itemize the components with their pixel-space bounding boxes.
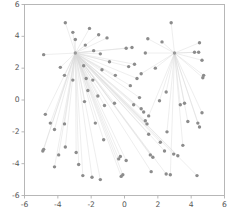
cluster-spoke <box>75 53 118 159</box>
y-tick-label: 6 <box>15 0 20 9</box>
data-point <box>147 114 150 117</box>
data-point <box>151 156 154 159</box>
data-point <box>92 49 95 52</box>
data-point <box>71 78 74 81</box>
data-point <box>197 51 200 54</box>
data-point <box>142 110 145 113</box>
data-point <box>103 104 106 107</box>
data-point <box>130 46 133 49</box>
data-point <box>53 128 56 131</box>
data-point <box>74 38 77 41</box>
data-point <box>172 152 175 155</box>
data-point <box>108 60 111 63</box>
data-point <box>144 51 147 54</box>
cluster-spoke <box>44 53 76 55</box>
x-tick-label: 2 <box>155 200 160 209</box>
data-point <box>53 165 56 168</box>
data-point <box>64 145 67 148</box>
cluster-spoke <box>175 53 203 113</box>
data-point <box>113 101 116 104</box>
data-point <box>57 153 60 156</box>
y-tick-label: -4 <box>12 159 20 168</box>
cluster-spokes-layer <box>43 23 204 180</box>
data-point <box>49 121 52 124</box>
data-point <box>196 121 199 124</box>
cluster-spoke <box>55 53 76 167</box>
data-point <box>124 47 127 50</box>
data-point <box>81 174 84 177</box>
data-point <box>129 84 132 87</box>
data-point <box>193 51 196 54</box>
data-point <box>99 52 102 55</box>
data-point <box>135 77 138 80</box>
data-point <box>82 64 85 67</box>
data-point <box>96 94 99 97</box>
data-point <box>201 76 204 79</box>
data-point <box>86 89 89 92</box>
data-point <box>133 62 136 65</box>
data-point <box>83 100 86 103</box>
cluster-spoke <box>75 47 132 53</box>
cluster-spoke <box>75 53 151 172</box>
data-point <box>84 43 87 46</box>
cluster-spoke <box>149 53 175 116</box>
data-point <box>100 68 103 71</box>
data-point <box>74 151 77 154</box>
cluster-spoke <box>175 53 204 75</box>
data-point <box>44 113 47 116</box>
data-point <box>119 155 122 158</box>
cluster-1-center <box>74 51 77 54</box>
plot-canvas: -6-4-20246-6-4-20246 <box>0 0 233 219</box>
data-point <box>63 74 66 77</box>
data-point <box>139 107 142 110</box>
data-point <box>97 33 100 36</box>
data-point <box>149 153 152 156</box>
cluster-spoke <box>170 53 174 175</box>
data-point <box>99 178 102 181</box>
scatter-plot-figure: -6-4-20246-6-4-20246 <box>0 0 233 219</box>
cluster-2-center <box>173 51 176 54</box>
data-point <box>94 121 97 124</box>
cluster-spoke <box>171 23 174 53</box>
data-point <box>145 122 148 125</box>
data-point <box>181 144 184 147</box>
y-tick-label: -6 <box>12 191 20 200</box>
tick-labels-layer: -6-4-20246-6-4-20246 <box>12 0 227 209</box>
data-point <box>139 72 142 75</box>
data-point <box>59 66 62 69</box>
data-point <box>176 154 179 157</box>
data-point <box>124 159 127 162</box>
data-point <box>198 125 201 128</box>
data-point <box>200 59 203 62</box>
x-tick-label: 0 <box>122 200 127 209</box>
data-point <box>144 119 147 122</box>
data-point <box>165 130 168 133</box>
data-point <box>132 103 135 106</box>
data-point <box>186 120 189 123</box>
data-point <box>121 173 124 176</box>
cluster-spoke <box>141 53 174 74</box>
data-point <box>138 96 141 99</box>
x-tick-label: 4 <box>189 200 194 209</box>
data-point <box>147 133 150 136</box>
data-point <box>127 65 130 68</box>
data-point <box>154 66 157 69</box>
data-point <box>42 148 45 151</box>
cluster-spoke <box>175 53 183 145</box>
y-tick-label: 2 <box>15 63 20 72</box>
y-tick-label: -2 <box>12 127 20 136</box>
data-point <box>183 101 186 104</box>
cluster-spoke <box>75 53 197 176</box>
data-point <box>160 40 163 43</box>
data-point <box>105 36 108 39</box>
data-point <box>114 74 117 77</box>
data-point <box>77 163 80 166</box>
x-tick-label: -4 <box>54 200 62 209</box>
data-point <box>198 41 201 44</box>
data-point <box>64 21 67 24</box>
data-point <box>71 31 74 34</box>
data-point <box>102 138 105 141</box>
x-tick-label: 6 <box>222 200 227 209</box>
data-point <box>42 53 45 56</box>
data-point <box>163 149 166 152</box>
